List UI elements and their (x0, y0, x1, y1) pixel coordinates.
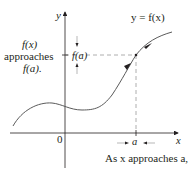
fa-annotation: f(a). (23, 63, 42, 74)
arrow-left-icon (143, 142, 147, 145)
limit-point (135, 54, 138, 57)
approaches-annotation: approaches (4, 51, 53, 62)
origin-label: 0 (57, 134, 63, 145)
curve-arrow-up-icon (124, 63, 131, 70)
arrow-up-icon (76, 63, 79, 67)
arrow-down-icon (76, 43, 79, 47)
y-axis-fa-label: f(a) (72, 51, 87, 62)
diagram-canvas (0, 0, 190, 176)
x-axis-label: x (176, 136, 181, 147)
y-axis-label: y (56, 10, 61, 21)
arrow-right-icon (125, 142, 129, 145)
caption: As x approaches a, (105, 153, 188, 164)
fx-annotation: f(x) (22, 39, 37, 50)
curve-label: y = f(x) (131, 12, 165, 23)
x-axis-a-label: a (132, 137, 137, 148)
limit-diagram: y y = f(x) f(x) approaches f(a). f(a) 0 … (0, 0, 190, 176)
